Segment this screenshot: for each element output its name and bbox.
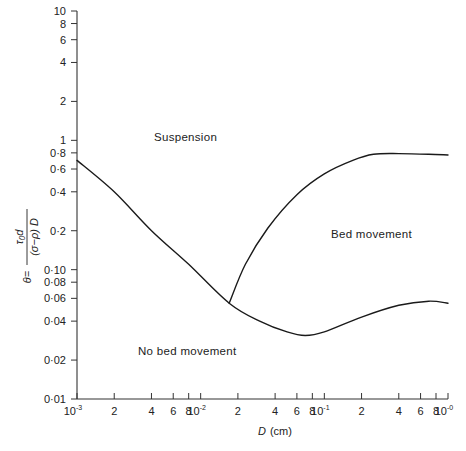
x-axis-unit: (cm) (270, 425, 292, 437)
y-tick-label: 0·08 (44, 276, 66, 288)
y-tick-label: 8 (60, 18, 66, 30)
y-axis-denominator: (σ−ρ) D (28, 218, 40, 256)
y-tick-label: 6 (60, 34, 66, 46)
region-label-bed-movement: Bed movement (331, 228, 412, 240)
x-axis-var: D (258, 425, 266, 437)
y-tick-label: 2 (60, 95, 66, 107)
y-axis-title: θ= τ₀d (σ−ρ) D (13, 209, 40, 283)
x-tick-label: 10-2 (187, 404, 206, 417)
x-tick-label: 6 (418, 405, 424, 417)
y-tick-label: 0·8 (50, 147, 66, 159)
x-axis-title: D(cm) (258, 425, 292, 437)
x-tick-label: 10-3 (64, 404, 83, 417)
x-tick-label: 4 (148, 405, 154, 417)
svg-text:D(cm): D(cm) (258, 425, 292, 437)
x-tick-label: 4 (396, 405, 402, 417)
y-tick-label: 0·10 (44, 264, 66, 276)
x-tick-label: 4 (272, 405, 278, 417)
y-tick-label: 10 (54, 5, 66, 17)
y-tick-label: 0·01 (44, 393, 66, 405)
y-tick-label: 1 (60, 134, 66, 146)
x-tick-label: 6 (294, 405, 300, 417)
y-tick-label: 0·02 (44, 354, 66, 366)
x-ticks: 10-3246810-2246810-1246810-0 (64, 393, 454, 417)
y-axis-numerator: τ₀d (13, 229, 25, 245)
y-ticks: 10864210·80·60·40·20·100·080·060·040·020… (44, 5, 77, 405)
x-tick-label: 6 (170, 405, 176, 417)
x-tick-label: 2 (111, 405, 117, 417)
y-tick-label: 0·6 (50, 163, 66, 175)
x-tick-label: 10-0 (435, 404, 454, 417)
region-label-suspension: Suspension (154, 131, 217, 143)
shields-diagram-chart: 10864210·80·60·40·20·100·080·060·040·020… (0, 0, 466, 451)
x-tick-label: 2 (358, 405, 364, 417)
y-tick-label: 4 (60, 56, 66, 68)
y-axis-theta: θ= (21, 270, 33, 283)
y-tick-label: 0·06 (44, 292, 66, 304)
region-label-no-bed-movement: No bed movement (138, 345, 237, 357)
x-tick-label: 10-1 (311, 404, 330, 417)
y-tick-label: 0·2 (50, 225, 66, 237)
y-tick-label: 0·4 (50, 186, 66, 198)
x-tick-label: 2 (235, 405, 241, 417)
axes (77, 11, 448, 399)
curves (77, 154, 448, 336)
y-tick-label: 0·04 (44, 315, 66, 327)
bed-movement-threshold-curve (77, 160, 448, 335)
